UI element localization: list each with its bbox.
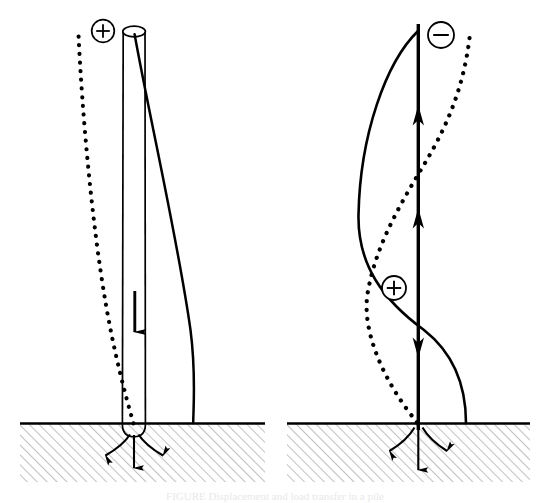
figure-caption: FIGURE Displacement and load transfer in…	[0, 490, 550, 503]
pile-cylinder	[122, 26, 145, 437]
solid-deflection-curve-left	[135, 34, 194, 423]
figure-root: FIGURE Displacement and load transfer in…	[0, 0, 550, 503]
engineering-diagram	[0, 0, 550, 503]
plus-sign-circle-left	[92, 20, 115, 43]
compression-panel	[20, 20, 265, 482]
dotted-deflection-curve-left	[79, 37, 134, 424]
uplift-panel	[287, 22, 530, 482]
plus-sign-circle-right	[382, 276, 406, 300]
minus-sign-circle-right	[428, 22, 454, 48]
solid-deflection-curve-right	[358, 31, 466, 423]
soil-mass-right	[287, 424, 530, 482]
